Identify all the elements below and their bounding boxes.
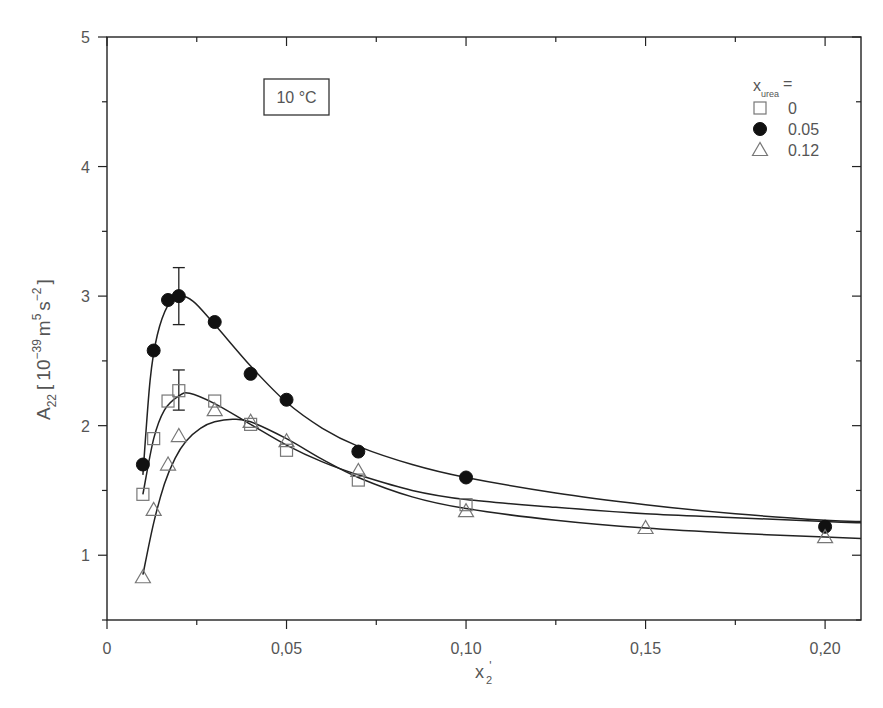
data-point-open-square <box>173 385 185 397</box>
data-point-filled-circle <box>172 290 185 303</box>
data-point-open-square <box>245 418 257 430</box>
x-tick-label: 0,15 <box>630 640 661 657</box>
legend-label: 0 <box>788 100 797 117</box>
data-point-open-square <box>148 433 160 445</box>
legend-marker-filled-circle-icon <box>754 123 767 136</box>
legend-label: 0.05 <box>788 121 819 138</box>
data-point-filled-circle <box>147 344 160 357</box>
x-tick-label: 0,10 <box>450 640 481 657</box>
fit-curve-0 <box>143 393 861 523</box>
data-point-filled-circle <box>819 520 832 533</box>
temperature-annotation: 10 °C <box>264 79 329 115</box>
data-point-filled-circle <box>136 458 149 471</box>
x-tick-label: 0,20 <box>810 640 841 657</box>
x-axis-title: x2' <box>475 659 492 686</box>
chart: 00,050,100,150,20 12345 10 °C xurea= 00.… <box>0 0 883 708</box>
fit-curves <box>143 296 861 575</box>
plot-frame <box>107 37 861 620</box>
temperature-label: 10 °C <box>276 89 316 106</box>
legend: xurea= 00.050.12 <box>753 75 820 159</box>
legend-title: xurea= <box>753 75 792 99</box>
data-point-filled-circle <box>244 367 257 380</box>
data-point-open-square <box>209 395 221 407</box>
x-tick-label: 0 <box>103 640 112 657</box>
data-point-open-square <box>281 444 293 456</box>
plot-border <box>107 37 861 620</box>
data-point-open-square <box>137 488 149 500</box>
data-point-open-square <box>352 474 364 486</box>
legend-marker-open-triangle-icon <box>753 143 768 156</box>
y-tick-label: 2 <box>81 418 90 435</box>
x-tick-label: 0,05 <box>271 640 302 657</box>
data-point-filled-circle <box>460 471 473 484</box>
data-point-open-triangle <box>171 429 186 442</box>
legend-entries: 00.050.12 <box>753 100 820 159</box>
fit-curve-0.05 <box>143 296 861 522</box>
y-axis: 12345 <box>81 29 861 620</box>
legend-marker-open-square-icon <box>754 102 766 114</box>
legend-label: 0.12 <box>788 142 819 159</box>
data-point-filled-circle <box>352 445 365 458</box>
fit-curve-0.12 <box>143 419 861 575</box>
y-tick-label: 3 <box>81 288 90 305</box>
data-point-filled-circle <box>280 393 293 406</box>
y-tick-label: 5 <box>81 29 90 46</box>
data-markers <box>135 290 832 583</box>
y-axis-title: A22[10−39m5s−2] <box>30 279 59 420</box>
x-axis: 00,050,100,150,20 <box>103 37 841 657</box>
y-tick-label: 1 <box>81 547 90 564</box>
y-tick-label: 4 <box>81 159 90 176</box>
data-point-filled-circle <box>208 316 221 329</box>
